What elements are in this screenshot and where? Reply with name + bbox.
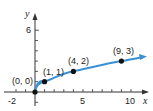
y-axis-arrow-icon xyxy=(33,13,38,20)
x-axis-arrow-icon xyxy=(142,90,149,95)
x-tick-label: 5 xyxy=(80,96,85,106)
point-4-2 xyxy=(71,69,76,74)
x-axis-label: x xyxy=(142,95,148,106)
x-tick-label: -2 xyxy=(8,96,16,106)
point-label: (4, 2) xyxy=(68,56,89,66)
point-label: (1, 1) xyxy=(43,67,64,77)
y-axis-label: y xyxy=(24,8,30,19)
point-1-1 xyxy=(42,79,47,84)
curve-arrow-icon xyxy=(139,54,147,60)
y-tick-label: 6 xyxy=(26,25,31,35)
point-label: (9, 3) xyxy=(113,46,134,56)
chart-canvas: -2 5 10 6 x y (0, 0) (1, 1) (4, 2) (9, 3… xyxy=(0,0,153,111)
point-0-0 xyxy=(32,89,37,94)
x-axis xyxy=(4,89,149,95)
point-9-3 xyxy=(119,59,124,64)
point-label: (0, 0) xyxy=(12,76,33,86)
x-tick-label: 10 xyxy=(125,96,135,106)
